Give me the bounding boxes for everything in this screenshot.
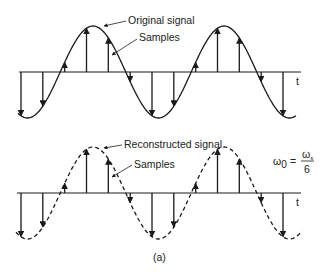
- figure-caption: (a): [153, 251, 166, 263]
- top-samples-pointer: [112, 39, 137, 55]
- equation-numerator: ωs: [302, 148, 313, 161]
- top-axis-label-t: t: [296, 75, 299, 87]
- bottom-samples-label: Samples: [134, 158, 175, 170]
- equation-denominator: 6: [304, 163, 310, 175]
- bottom-axis-label-t: t: [296, 196, 299, 208]
- top-panel: t Original signal Samples: [18, 14, 301, 118]
- reconstructed-signal-label: Reconstructed signal: [124, 138, 222, 150]
- top-samples-label: Samples: [139, 31, 180, 43]
- sampling-diagram: t Original signal Samples t Reconstructe…: [0, 0, 321, 275]
- original-signal-label: Original signal: [128, 14, 195, 26]
- equation-lhs: ω0: [273, 155, 287, 170]
- original-signal-pointer: [104, 21, 126, 26]
- reconstructed-signal-pointer: [104, 145, 122, 148]
- frequency-equation: ω0 = ωs 6: [273, 148, 314, 175]
- equation-equals: =: [290, 155, 296, 167]
- bottom-panel: t Reconstructed signal Samples ω0 = ωs 6: [16, 138, 314, 239]
